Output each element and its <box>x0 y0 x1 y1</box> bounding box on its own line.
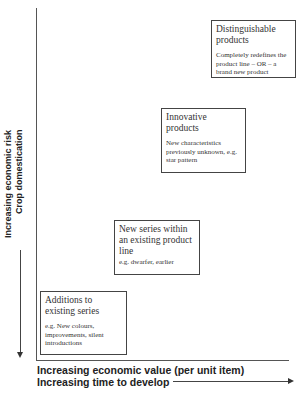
box-title: New series within an existing product li… <box>119 224 195 257</box>
box-title: Distinguishable products <box>216 24 291 46</box>
box-description: Completely redefines the product line – … <box>216 51 291 77</box>
box-description: e.g. dwarfer, earlier <box>119 258 195 267</box>
y-axis-label-domestication: Crop domestication <box>14 129 24 214</box>
y-axis-label-risk: Increasing economic risk <box>3 130 13 238</box>
box-title: Additions to existing series <box>45 295 122 317</box>
vertical-axis-line <box>36 8 37 360</box>
arrow-right-icon <box>288 378 294 384</box>
box-description: e.g. New colours, improvements, silent i… <box>45 322 122 348</box>
y-arrow-line <box>20 250 21 354</box>
x-axis-label-time: Increasing time to develop <box>37 376 169 388</box>
arrow-down-icon <box>17 352 23 358</box>
box-title: Innovative products <box>166 112 241 134</box>
x-axis-label-value: Increasing economic value (per unit item… <box>37 364 244 376</box>
x-arrow-line <box>173 381 289 382</box>
box-distinguishable-products: Distinguishable products Completely rede… <box>211 20 296 78</box>
box-innovative-products: Innovative products New characteristics … <box>161 108 246 173</box>
box-new-series: New series within an existing product li… <box>114 220 200 275</box>
box-description: New characteristics previously unknown, … <box>166 139 241 165</box>
horizontal-axis-line <box>36 360 289 361</box>
box-additions-to-existing-series: Additions to existing series e.g. New co… <box>40 291 127 355</box>
